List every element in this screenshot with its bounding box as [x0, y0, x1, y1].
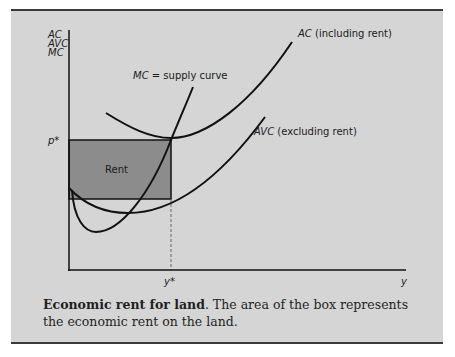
- p-star-label: p*: [47, 135, 59, 146]
- y-star-label: y*: [163, 276, 175, 287]
- y-axis-label-mc: MC: [48, 47, 64, 58]
- x-axis-label: y: [400, 276, 408, 287]
- caption-title: Economic rent for land: [43, 297, 205, 312]
- mc-curve-label: MC = supply curve: [133, 70, 228, 81]
- figure-caption: Economic rent for land. The area of the …: [43, 296, 423, 330]
- avc-curve-label: AVC (excluding rent): [253, 126, 357, 137]
- ac-curve: [106, 42, 292, 138]
- ac-curve-label: AC (including rent): [297, 28, 392, 39]
- rent-label: Rent: [105, 164, 128, 175]
